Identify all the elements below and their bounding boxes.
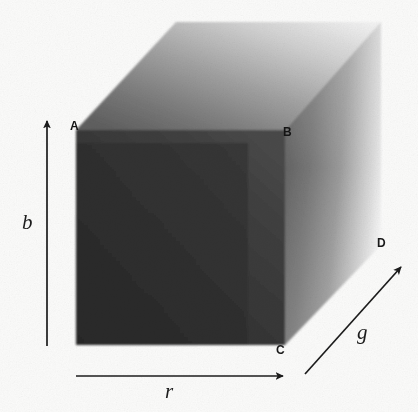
- axis-label-r: r: [165, 381, 173, 402]
- axis-label-b: b: [22, 212, 33, 233]
- rgb-cube-figure: A B C D b r g: [0, 0, 418, 412]
- vertex-label-d: D: [377, 237, 386, 249]
- vertex-label-b: B: [283, 126, 292, 138]
- vertex-label-c: C: [276, 344, 285, 356]
- vertex-label-a: A: [70, 120, 79, 132]
- axis-arrows: [0, 0, 418, 412]
- axis-label-g: g: [357, 322, 368, 343]
- green-axis-arrow: [305, 267, 401, 374]
